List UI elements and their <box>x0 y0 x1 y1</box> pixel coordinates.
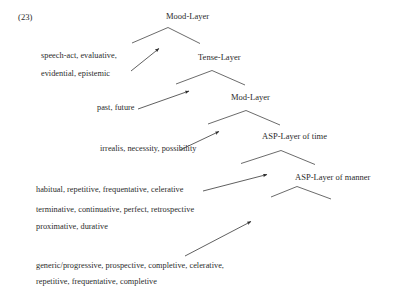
layer-label-tense: Tense-Layer <box>198 53 241 62</box>
feature-line-asp-time-3: proximative, durative <box>36 223 108 231</box>
feature-line-asp-time-1: habitual, repetitive, frequentative, cel… <box>36 186 183 194</box>
feature-line-asp-manner-2: repetitive, frequentative, completive <box>36 278 157 286</box>
branch-asp-time-layer <box>241 151 315 165</box>
figure-canvas: (23) Mood-Layer Tense-Layer Mod-Layer AS… <box>0 0 403 303</box>
feature-line-mood-2: evidential, epistemic <box>41 70 110 78</box>
branch-tense-layer <box>176 71 245 86</box>
arrow-to-asp-time-layer <box>203 175 267 192</box>
branch-mod-layer <box>208 111 280 126</box>
arrow-to-mood-layer <box>131 49 159 72</box>
feature-line-mod-1: irrealis, necessity, possibility <box>100 145 196 153</box>
arrow-to-asp-manner-layer <box>185 222 251 257</box>
arrow-to-tense-layer <box>138 91 189 109</box>
branch-mood-layer <box>132 28 200 44</box>
feature-line-asp-manner-1: generic/progressive, prospective, comple… <box>36 262 224 270</box>
feature-line-mood-1: speech-act, evaluative, <box>41 52 117 60</box>
branch-asp-manner-layer <box>271 187 331 200</box>
feature-line-asp-time-2: terminative, continuative, perfect, retr… <box>36 206 194 214</box>
feature-line-tense-1: past, future <box>97 104 135 112</box>
example-number: (23) <box>18 13 32 22</box>
tree-lines-layer <box>0 0 403 303</box>
layer-label-mood: Mood-Layer <box>166 12 209 21</box>
layer-label-mod: Mod-Layer <box>231 93 270 102</box>
layer-label-asp-manner: ASP-Layer of manner <box>295 173 370 182</box>
layer-label-asp-time: ASP-Layer of time <box>262 132 327 141</box>
